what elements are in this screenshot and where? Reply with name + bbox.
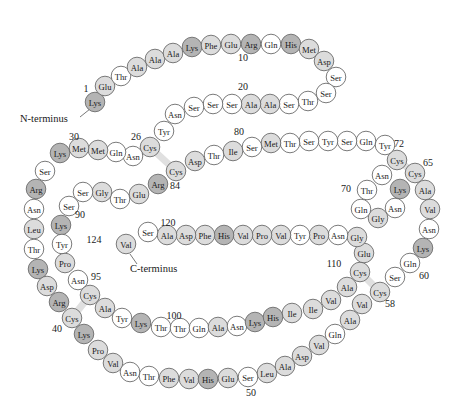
residue-47-val: Val [179, 369, 199, 389]
residue-label: Cys [408, 169, 422, 179]
residue-label: Ala [149, 55, 162, 65]
residue-label: Phe [163, 374, 176, 384]
residue-107-ile: Ile [303, 299, 323, 319]
residue-label: Tyr [322, 137, 334, 147]
ribonuclease-diagram: LysGluThrAlaAlaAlaLysPheGluArgGlnHisMetA… [0, 0, 459, 416]
residue-label: Ser [188, 103, 200, 113]
residue-label: His [218, 231, 231, 241]
residue-117-pro: Pro [252, 225, 272, 245]
residue-12-his: His [281, 34, 301, 54]
residue-22-ser: Ser [203, 94, 223, 114]
residue-label: Tyr [116, 314, 128, 324]
residue-label: Tyr [379, 141, 391, 151]
residue-label: Asp [40, 282, 54, 292]
residue-35-leu: Leu [24, 219, 44, 239]
residue-19-ala: Ala [260, 94, 280, 114]
residue-label: Ala [131, 63, 144, 73]
residue-label: Asn [230, 322, 245, 332]
position-number-120: 120 [161, 217, 176, 228]
position-number-50: 50 [246, 387, 256, 398]
position-number-95: 95 [91, 271, 101, 282]
residue-label: Cys [143, 143, 157, 153]
residue-37-lys: Lys [28, 259, 48, 279]
residue-label: Val [275, 231, 287, 241]
residue-label: Glu [99, 82, 113, 92]
residue-16-ser: Ser [316, 83, 336, 103]
residue-110-cys: Cys [350, 262, 370, 282]
residue-label: Tyr [294, 231, 306, 241]
residue-label: Ile [287, 309, 296, 319]
residue-75-ser: Ser [337, 131, 357, 151]
residue-label: Lys [186, 43, 199, 53]
residue-label: Thr [115, 72, 128, 82]
residue-label: Ala [99, 304, 112, 314]
residue-84-cys: Cys [166, 161, 186, 181]
position-number-80: 80 [234, 126, 244, 137]
residue-label: Ala [167, 49, 180, 59]
residue-53-asp: Asp [292, 346, 312, 366]
residue-41-lys: Lys [74, 324, 94, 344]
residue-36-thr: Thr [24, 239, 44, 259]
residue-29-met: Met [88, 140, 108, 160]
residue-88-gly: Gly [92, 182, 112, 202]
residue-67-asn: Asn [385, 198, 405, 218]
residue-9-glu: Glu [221, 34, 241, 54]
residue-74-gln: Gln [356, 131, 376, 151]
residue-23-ser: Ser [184, 97, 204, 117]
residue-label: Asn [27, 205, 42, 215]
residue-label: Asp [295, 352, 309, 362]
residue-101-gln: Gln [189, 318, 209, 338]
residue-91-lys: Lys [51, 215, 71, 235]
residue-34-asn: Asn [24, 199, 44, 219]
residue-label: Asn [71, 276, 86, 286]
protein-sequence-svg: LysGluThrAlaAlaAlaLysPheGluArgGlnHisMetA… [0, 0, 459, 416]
residue-103-asn: Asn [227, 316, 247, 336]
residue-122-ala: Ala [157, 225, 177, 245]
position-number-100: 100 [167, 310, 182, 321]
residue-21-ser: Ser [222, 94, 242, 114]
residue-label: Phe [199, 231, 212, 241]
residue-121-asp: Asp [176, 225, 196, 245]
residue-82-thr: Thr [204, 145, 224, 165]
residue-label: Lys [249, 318, 262, 328]
residue-label: Ile [308, 305, 317, 315]
residue-61-lys: Lys [413, 238, 433, 258]
residue-44-asn: Asn [120, 362, 140, 382]
position-number-72: 72 [394, 138, 404, 149]
residue-62-asn: Asn [419, 219, 439, 239]
residue-label: Lys [89, 98, 102, 108]
residue-33-arg: Arg [26, 179, 46, 199]
residue-label: Lys [394, 185, 407, 195]
residue-label: Met [91, 146, 105, 156]
residue-label: Gly [372, 214, 386, 224]
position-number-60: 60 [419, 270, 429, 281]
residue-6-ala: Ala [163, 43, 183, 63]
residue-label: Val [424, 205, 436, 215]
residue-4-ala: Ala [127, 57, 147, 77]
residue-56-ala: Ala [340, 310, 360, 330]
residue-label: Ala [212, 323, 225, 333]
position-number-58: 58 [385, 298, 395, 309]
residue-label: Lys [78, 330, 91, 340]
n-terminus-pointer [80, 109, 90, 117]
residue-label: Gln [360, 137, 374, 147]
residue-79-met: Met [261, 133, 281, 153]
residue-45-thr: Thr [139, 366, 159, 386]
residue-38-asp: Asp [37, 276, 57, 296]
residue-46-phe: Phe [159, 368, 179, 388]
residue-118-val: Val [233, 225, 253, 245]
residue-83-asp: Asp [185, 151, 205, 171]
residue-label: Asn [168, 110, 183, 120]
residue-label: Ser [207, 100, 219, 110]
residue-label: Lys [54, 149, 67, 159]
residue-59-ser: Ser [385, 267, 405, 287]
residue-label: Asn [331, 231, 346, 241]
residue-label: Val [356, 300, 368, 310]
residue-label: Phe [205, 41, 218, 51]
residue-label: Thr [208, 151, 221, 161]
residue-label: Asn [422, 225, 437, 235]
residue-label: Met [264, 139, 278, 149]
residue-label: Cys [373, 288, 387, 298]
residue-label: Lys [135, 319, 148, 329]
residue-66-lys: Lys [390, 179, 410, 199]
